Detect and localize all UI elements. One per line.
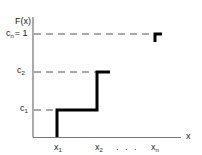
x-axis-label: x [186,132,191,141]
tick-label-x1: x1 [54,143,62,153]
tick-x1-sub: 1 [59,147,62,153]
tick-c1-sub: 1 [25,108,28,114]
tick-x2-sub: 2 [100,147,103,153]
tick-label-xn: xn [151,143,159,153]
tick-c2-sub: 2 [22,70,25,76]
tick-label-c1: c1 [20,104,28,114]
tick-cn-eq: = 1 [15,28,28,38]
tick-label-x2: x2 [95,143,103,153]
step-end-mark [155,34,162,42]
tick-xn-sub: n [156,147,159,153]
tick-label-c2: c2 [17,66,25,76]
y-axis-label: F(x) [15,17,31,26]
tick-label-cn: cn= 1 [6,29,28,39]
step-line [57,72,110,137]
tick-ellipsis: . . . [116,143,139,152]
tick-cn-sub: n [11,33,14,39]
